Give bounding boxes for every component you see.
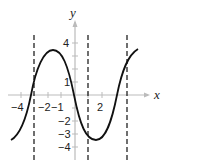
y-axis-arrow [73,20,78,27]
y-tick-label: 1 [64,76,70,88]
x-tick-label: −2 [38,101,51,113]
x-tick-label: −1 [51,101,64,113]
x-axis-label: x [153,87,160,102]
x-tick-label: −4 [11,101,24,113]
x-tick-label: 2 [97,101,103,113]
y-tick-label: −2 [58,115,71,127]
y-axis-label: y [68,5,76,20]
y-tick-label: 4 [63,37,69,49]
y-tick-label: −3 [58,128,71,140]
y-tick-label: −4 [58,141,71,153]
x-axis-arrow [144,93,150,98]
graph: y x −4 −2 −1 2 4 1 −2 −3 −4 [0,0,213,168]
